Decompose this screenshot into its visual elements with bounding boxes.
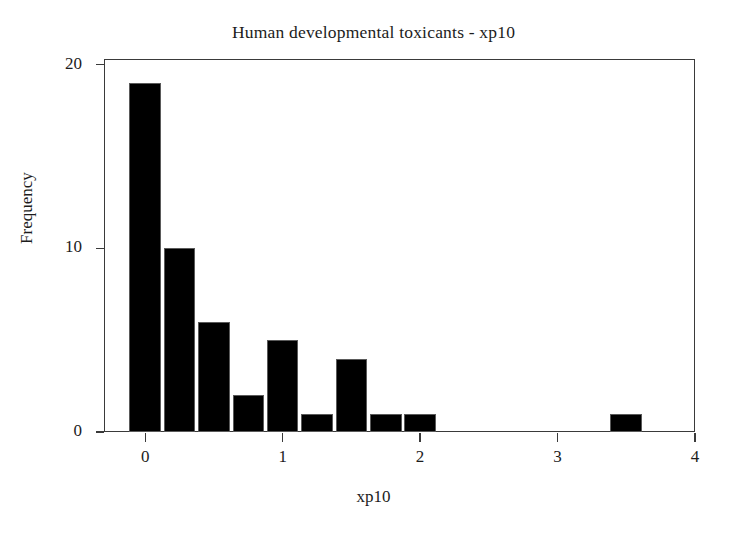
histogram-figure: Human developmental toxicants - xp10 Fre… [0,0,747,548]
y-tick-mark [96,248,104,249]
y-tick-label: 20 [36,54,82,74]
bar [336,359,368,432]
x-axis-label: xp10 [0,487,747,507]
x-tick-label: 3 [538,447,578,467]
bar [129,83,161,432]
bar [404,414,436,432]
bar [198,322,230,432]
x-tick-label: 0 [125,447,165,467]
x-tick-label: 1 [263,447,303,467]
y-tick-mark [96,431,104,432]
y-tick-label: 10 [36,237,82,257]
x-tick-label: 2 [400,447,440,467]
x-tick-mark [694,433,695,442]
y-tick-mark [96,64,104,65]
bar [267,340,299,432]
bar [164,248,196,432]
bar [233,395,265,432]
x-tick-mark [282,433,283,442]
x-tick-label: 4 [675,447,715,467]
y-axis-label: Frequency [17,123,37,293]
y-tick-label: 0 [36,421,82,441]
x-tick-mark [557,433,558,442]
x-tick-mark [419,433,420,442]
bar [301,414,333,432]
chart-title: Human developmental toxicants - xp10 [0,22,747,43]
bar [610,414,642,432]
x-tick-mark [145,433,146,442]
plot-area [104,59,695,432]
bar [370,414,402,432]
